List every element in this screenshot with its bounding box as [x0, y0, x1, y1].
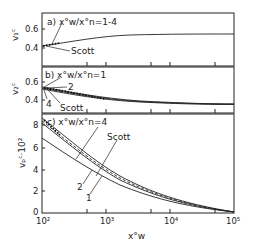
panel-b-leader-4 [44, 90, 47, 99]
ytick-c-4: 4 [33, 165, 38, 175]
ytick-b-06: 0.6 [25, 77, 39, 87]
ytick-a-04: 0.4 [25, 43, 39, 53]
panel-b-leader-2 [46, 87, 67, 88]
panel-b-scott-label: Scott [60, 103, 84, 113]
panel-c-curve-1 [42, 138, 234, 212]
panel-c-scott-label: Scott [107, 132, 131, 142]
ylabel-c: vₚᶜ·10² [17, 137, 27, 168]
xtick-1e3: 10³ [100, 216, 114, 226]
xtick-1e2: 10² [36, 216, 50, 226]
panel-c-scott-curve [42, 121, 234, 212]
panel-c-scott-leader [96, 140, 117, 176]
panel-c-curve-2 [42, 123, 234, 212]
panel-c-label-1: 1 [86, 193, 92, 203]
ytick-c-2: 2 [33, 186, 38, 196]
panel-a-scott-leader [46, 46, 70, 51]
panel-c-label-2: 2 [77, 182, 83, 192]
panel-c-leader-4 [76, 127, 98, 159]
panel-c-curve-4 [42, 118, 234, 212]
panel-a-title: a) x°w/x°n=1-4 [47, 17, 117, 27]
panel-c-leader-2 [83, 170, 92, 184]
panel-a-curve [42, 34, 234, 46]
ytick-a-06: 0.6 [25, 24, 39, 34]
panel-c-leader-1 [90, 176, 102, 194]
panel-a-scott-label: Scott [71, 46, 95, 56]
panel-b-label-4: 4 [46, 99, 52, 109]
ytick-c-8: 8 [33, 120, 38, 130]
panel-b-title: b) x°w/x°n=1 [45, 70, 106, 80]
chart-figure: a) x°w/x°n=1-4 Scott 0.6 0.4 v₁ᶜ b) x°w/… [0, 0, 254, 245]
panel-b-label-2: 2 [68, 82, 74, 92]
panel-c-title: c) x°w/x°n=4 [47, 117, 108, 127]
ytick-c-6: 6 [33, 143, 38, 153]
xtick-1e4: 10⁴ [164, 216, 179, 226]
xtick-1e5: 10⁵ [226, 216, 240, 226]
ylabel-a: v₁ᶜ [10, 29, 20, 41]
ylabel-b: v₂ᶜ [10, 83, 20, 95]
ytick-b-04: 0.4 [25, 95, 39, 105]
x-axis-label: x°w [128, 231, 145, 241]
panel-c-frame [42, 114, 234, 213]
